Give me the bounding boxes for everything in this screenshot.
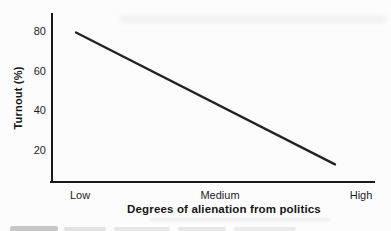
- turnout-trend-line: [76, 32, 335, 164]
- figure: Turnout (%) 80 60 40 20 Low Medium High …: [0, 0, 391, 231]
- x-category-high: High: [350, 189, 373, 201]
- x-category-medium: Medium: [200, 189, 239, 201]
- plot-area: [0, 0, 391, 231]
- x-category-low: Low: [70, 189, 90, 201]
- x-axis-title: Degrees of alienation from politics: [127, 203, 321, 215]
